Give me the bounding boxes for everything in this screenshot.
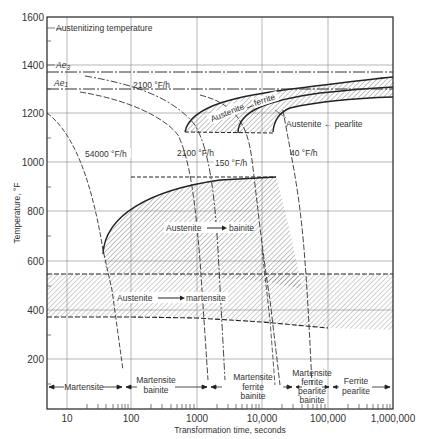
zone-mfb-3: bainite <box>240 391 265 401</box>
y-tick: 400 <box>27 305 44 316</box>
x-tick: 100,000 <box>310 413 347 424</box>
y-tick: 1000 <box>22 157 45 168</box>
austenitizing-label: Austenitizing temperature <box>56 23 153 33</box>
zone-fp-1: Ferrite <box>344 376 369 386</box>
rate-2100-top-label: 2100 °F/h <box>133 80 170 90</box>
x-minor-ticks <box>87 404 390 409</box>
x-tick: 1000 <box>186 413 209 424</box>
cct-diagram: 1600 1400 1200 1000 800 600 400 200 10 1… <box>0 0 423 439</box>
ae1-label: Ae1 <box>53 78 68 88</box>
zone-mfpb-4: bainite <box>299 395 324 405</box>
rate-40-label: 40 °F/h <box>290 148 318 158</box>
aus-martensite-label-a: Austenite <box>117 293 153 303</box>
rate-54000-label: 54000 °F/h <box>85 149 127 159</box>
aus-martensite-label-b: martensite <box>186 293 226 303</box>
y-tick: 800 <box>27 206 44 217</box>
x-tick: 10 <box>61 413 73 424</box>
ae3-label: Ae3 <box>55 60 70 71</box>
rate-2100-mid-label: 2100 °F/h <box>177 148 214 158</box>
y-tick: 600 <box>27 256 44 267</box>
y-tick: 1400 <box>22 60 45 71</box>
x-axis-title: Transformation time, seconds <box>174 425 286 435</box>
y-tick-labels: 1600 1400 1200 1000 800 600 400 200 <box>22 12 45 365</box>
zone-martensite: Martensite <box>64 382 104 392</box>
x-tick-labels: 10 100 1000 10,000 100,000 1,000,000 <box>61 413 415 424</box>
y-tick: 1200 <box>22 108 45 119</box>
aus-bainite-label-a: Austenite <box>166 223 202 233</box>
y-axis-title: Temperature, °F <box>12 182 22 243</box>
x-tick: 100 <box>123 413 140 424</box>
aus-pearlite-label: Austenite ← pearlite <box>286 119 363 129</box>
x-tick: 1,000,000 <box>371 413 416 424</box>
y-tick: 200 <box>27 354 44 365</box>
zone-mb-1: Martensite <box>136 375 176 385</box>
zone-fp-2: pearlite <box>342 386 370 396</box>
zone-mb-2: bainite <box>143 385 168 395</box>
aus-bainite-label-b: bainite <box>229 223 254 233</box>
zone-mfb-1: Martensite <box>233 372 273 382</box>
rate-150-label: 150 °F/h <box>215 158 247 168</box>
y-tick: 1600 <box>22 12 45 23</box>
x-tick: 10,000 <box>247 413 278 424</box>
